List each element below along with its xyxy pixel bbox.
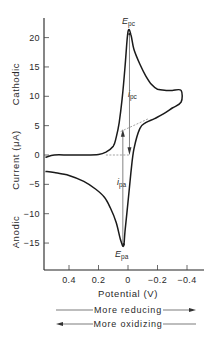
y-tick-label: 20 [29,33,40,43]
y-tick-label: 0 [35,150,40,160]
cyclic-voltammogram-chart: 20151050−5−10−150.40.20−0.2−0.4 Epc ipc … [0,0,216,342]
epa-marker [122,243,124,245]
x-tick-label: 0 [125,275,130,285]
cv-curve [45,29,182,246]
epc-marker [128,33,130,35]
epa-label: Epa [115,249,129,261]
voltammogram-curve [45,29,182,246]
y-tick-label: 10 [29,91,40,101]
direction-notes: More reducing More oxidizing [56,305,196,329]
y-tick-label: 15 [29,62,40,72]
more-reducing-label: More reducing [94,305,162,315]
anodic-label: Anodic [10,216,21,249]
y-tick-label: −10 [24,209,40,219]
epc-label: Epc [122,16,136,28]
annotations: Epc ipc Epa ipa [106,16,149,261]
y-tick-label: −5 [29,179,40,189]
arrow-down-icon [127,147,131,155]
x-tick-label: 0.4 [62,275,76,285]
cathodic-label: Cathodic [10,63,21,105]
arrow-right-icon [189,308,196,312]
tick-marks: 20151050−5−10−150.40.20−0.2−0.4 [24,33,197,285]
x-tick-label: 0.2 [92,275,106,285]
y-axis-label: Current (μA) [10,130,21,190]
x-axis-label: Potential (V) [98,288,158,299]
axes [44,18,204,270]
x-tick-label: −0.2 [148,275,167,285]
ipa-label: ipa [117,177,127,189]
y-tick-label: −15 [24,238,40,248]
x-tick-label: −0.4 [177,275,196,285]
arrow-left-icon [56,322,63,326]
y-tick-label: 5 [35,121,40,131]
more-oxidizing-label: More oxidizing [93,319,162,329]
